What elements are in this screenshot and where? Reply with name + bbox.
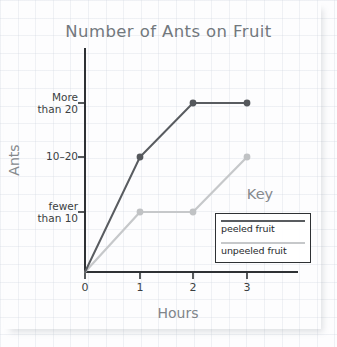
legend-item-peeled-fruit: peeled fruit xyxy=(221,220,307,234)
series-point-unpeeled-fruit-2 xyxy=(190,209,197,216)
line-chart-plot xyxy=(0,0,337,347)
legend-box: peeled fruit unpeeled fruit xyxy=(215,213,311,263)
series-point-peeled-fruit-1 xyxy=(137,154,144,161)
legend-swatch-peeled-fruit xyxy=(221,220,305,222)
legend-label-unpeeled-fruit: unpeeled fruit xyxy=(221,245,307,256)
series-point-unpeeled-fruit-1 xyxy=(137,209,144,216)
legend-title: Key xyxy=(230,186,290,202)
series-point-peeled-fruit-3 xyxy=(244,100,251,107)
series-point-unpeeled-fruit-3 xyxy=(244,154,251,161)
worksheet-page: Number of Ants on Fruit Ants Hours More … xyxy=(0,0,337,347)
series-point-peeled-fruit-2 xyxy=(190,100,197,107)
legend-item-unpeeled-fruit: unpeeled fruit xyxy=(221,242,307,256)
legend-swatch-unpeeled-fruit xyxy=(221,242,305,244)
legend-label-peeled-fruit: peeled fruit xyxy=(221,223,307,234)
